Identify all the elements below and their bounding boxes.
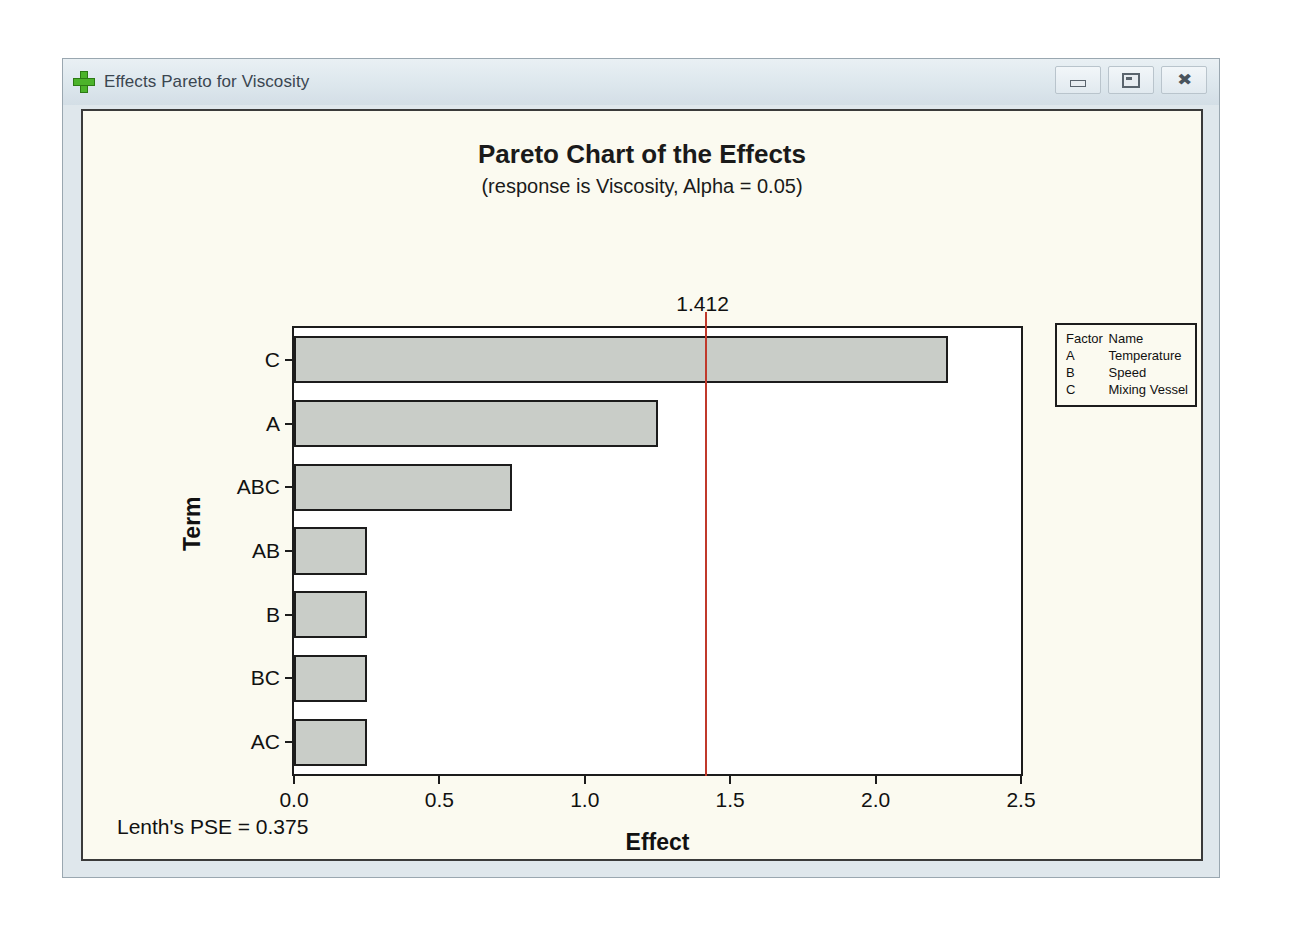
y-tick-mark (285, 677, 294, 679)
legend-row: CMixing Vessel (1066, 381, 1188, 398)
factor-legend: Factor Name ATemperatureBSpeedCMixing Ve… (1055, 323, 1197, 407)
legend-header-name: Name (1109, 330, 1188, 347)
bar[interactable] (294, 527, 367, 574)
x-tick-mark (293, 774, 295, 784)
bar-series (294, 328, 1021, 774)
reference-line (705, 312, 707, 776)
legend-name: Speed (1109, 364, 1188, 381)
bar-row (294, 655, 1021, 702)
x-tick-label: 1.0 (570, 788, 599, 812)
restore-button[interactable] (1108, 66, 1154, 94)
bar[interactable] (294, 591, 367, 638)
x-tick-label: 1.5 (716, 788, 745, 812)
legend-name: Mixing Vessel (1109, 381, 1188, 398)
chart-subtitle: (response is Viscosity, Alpha = 0.05) (83, 175, 1201, 198)
x-tick-mark (1020, 774, 1022, 784)
bar-row (294, 400, 1021, 447)
y-tick-label: AB (252, 539, 280, 563)
bar-row (294, 591, 1021, 638)
x-axis-title: Effect (292, 829, 1023, 856)
x-tick-label: 2.5 (1006, 788, 1035, 812)
y-tick-mark (285, 614, 294, 616)
legend-row: BSpeed (1066, 364, 1188, 381)
window-controls: ✖ (1055, 66, 1207, 94)
y-axis-title: Term (179, 496, 206, 551)
close-button[interactable]: ✖ (1161, 66, 1207, 94)
legend-factor: C (1066, 381, 1109, 398)
chart-title: Pareto Chart of the Effects (83, 139, 1201, 170)
y-tick-mark (285, 423, 294, 425)
minimize-button[interactable] (1055, 66, 1101, 94)
x-tick-mark (875, 774, 877, 784)
y-tick-mark (285, 741, 294, 743)
y-tick-label: BC (251, 666, 280, 690)
x-tick-label: 2.0 (861, 788, 890, 812)
restore-icon (1122, 73, 1140, 88)
legend-row: ATemperature (1066, 347, 1188, 364)
window-title: Effects Pareto for Viscosity (104, 72, 309, 92)
chart-window: Effects Pareto for Viscosity ✖ Pareto Ch… (62, 58, 1220, 878)
y-tick-mark (285, 486, 294, 488)
minimize-icon (1070, 80, 1086, 87)
bar[interactable] (294, 400, 658, 447)
legend-name: Temperature (1109, 347, 1188, 364)
close-icon: ✖ (1177, 72, 1192, 88)
bar-row (294, 336, 1021, 383)
bar[interactable] (294, 719, 367, 766)
pareto-chart: Pareto Chart of the Effects (response is… (81, 109, 1203, 861)
x-tick-mark (438, 774, 440, 784)
footnote: Lenth's PSE = 0.375 (117, 815, 308, 839)
legend-factor: A (1066, 347, 1109, 364)
y-tick-label: C (265, 348, 280, 372)
plus-icon (73, 71, 95, 93)
y-tick-label: A (266, 412, 280, 436)
x-tick-label: 0.5 (425, 788, 454, 812)
bar[interactable] (294, 336, 948, 383)
reference-line-label: 1.412 (676, 292, 729, 316)
bar-row (294, 719, 1021, 766)
x-tick-mark (584, 774, 586, 784)
y-tick-label: AC (251, 730, 280, 754)
y-tick-mark (285, 359, 294, 361)
y-tick-label: ABC (237, 475, 280, 499)
legend-header-factor: Factor (1066, 330, 1109, 347)
window-title-bar[interactable]: Effects Pareto for Viscosity ✖ (63, 59, 1219, 105)
bar[interactable] (294, 655, 367, 702)
bar-row (294, 464, 1021, 511)
legend-body: ATemperatureBSpeedCMixing Vessel (1066, 347, 1188, 398)
bar-row (294, 527, 1021, 574)
legend-table: Factor Name ATemperatureBSpeedCMixing Ve… (1066, 330, 1188, 398)
plot-area: CAABCABBBCAC0.00.51.01.52.02.5 (292, 326, 1023, 776)
x-tick-mark (729, 774, 731, 784)
x-tick-label: 0.0 (279, 788, 308, 812)
y-tick-label: B (266, 603, 280, 627)
legend-factor: B (1066, 364, 1109, 381)
legend-header-row: Factor Name (1066, 330, 1188, 347)
y-tick-mark (285, 550, 294, 552)
bar[interactable] (294, 464, 512, 511)
